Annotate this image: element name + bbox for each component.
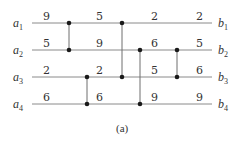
wire-value: 5 bbox=[196, 37, 203, 50]
wire-value: 9 bbox=[43, 10, 50, 23]
wire-value: 2 bbox=[151, 10, 158, 23]
wire-value: 6 bbox=[196, 64, 203, 77]
wire-value: 5 bbox=[43, 37, 50, 50]
comparator-1-2 bbox=[67, 21, 72, 53]
wire-value: 2 bbox=[196, 10, 203, 23]
output-label-b2: b2 bbox=[218, 43, 228, 59]
wire-value: 9 bbox=[151, 91, 158, 104]
wire-value: 6 bbox=[151, 37, 158, 50]
input-label-a1: a1 bbox=[13, 16, 23, 32]
output-label-b4: b4 bbox=[218, 97, 228, 113]
input-label-a2: a2 bbox=[13, 43, 23, 59]
wire-value: 9 bbox=[196, 91, 203, 104]
wire-value: 6 bbox=[96, 91, 103, 104]
output-label-b1: b1 bbox=[218, 16, 228, 32]
wire-value: 6 bbox=[43, 91, 50, 104]
wire-value: 5 bbox=[151, 64, 158, 77]
input-label-a4: a4 bbox=[13, 97, 23, 113]
wire-value: 5 bbox=[96, 10, 103, 23]
wire-value: 9 bbox=[96, 37, 103, 50]
input-label-a3: a3 bbox=[13, 70, 23, 86]
comparator-3-4 bbox=[85, 75, 90, 107]
sorting-network-diagram: a1 a2 a3 a4 b1 b2 b3 b4 9 5 2 2 5 9 6 5 … bbox=[0, 0, 244, 144]
wire-value: 2 bbox=[43, 64, 50, 77]
figure-caption: (a) bbox=[116, 122, 129, 135]
wire-value: 2 bbox=[96, 64, 103, 77]
comparator-2-3 bbox=[175, 48, 180, 80]
output-label-b3: b3 bbox=[218, 70, 228, 86]
